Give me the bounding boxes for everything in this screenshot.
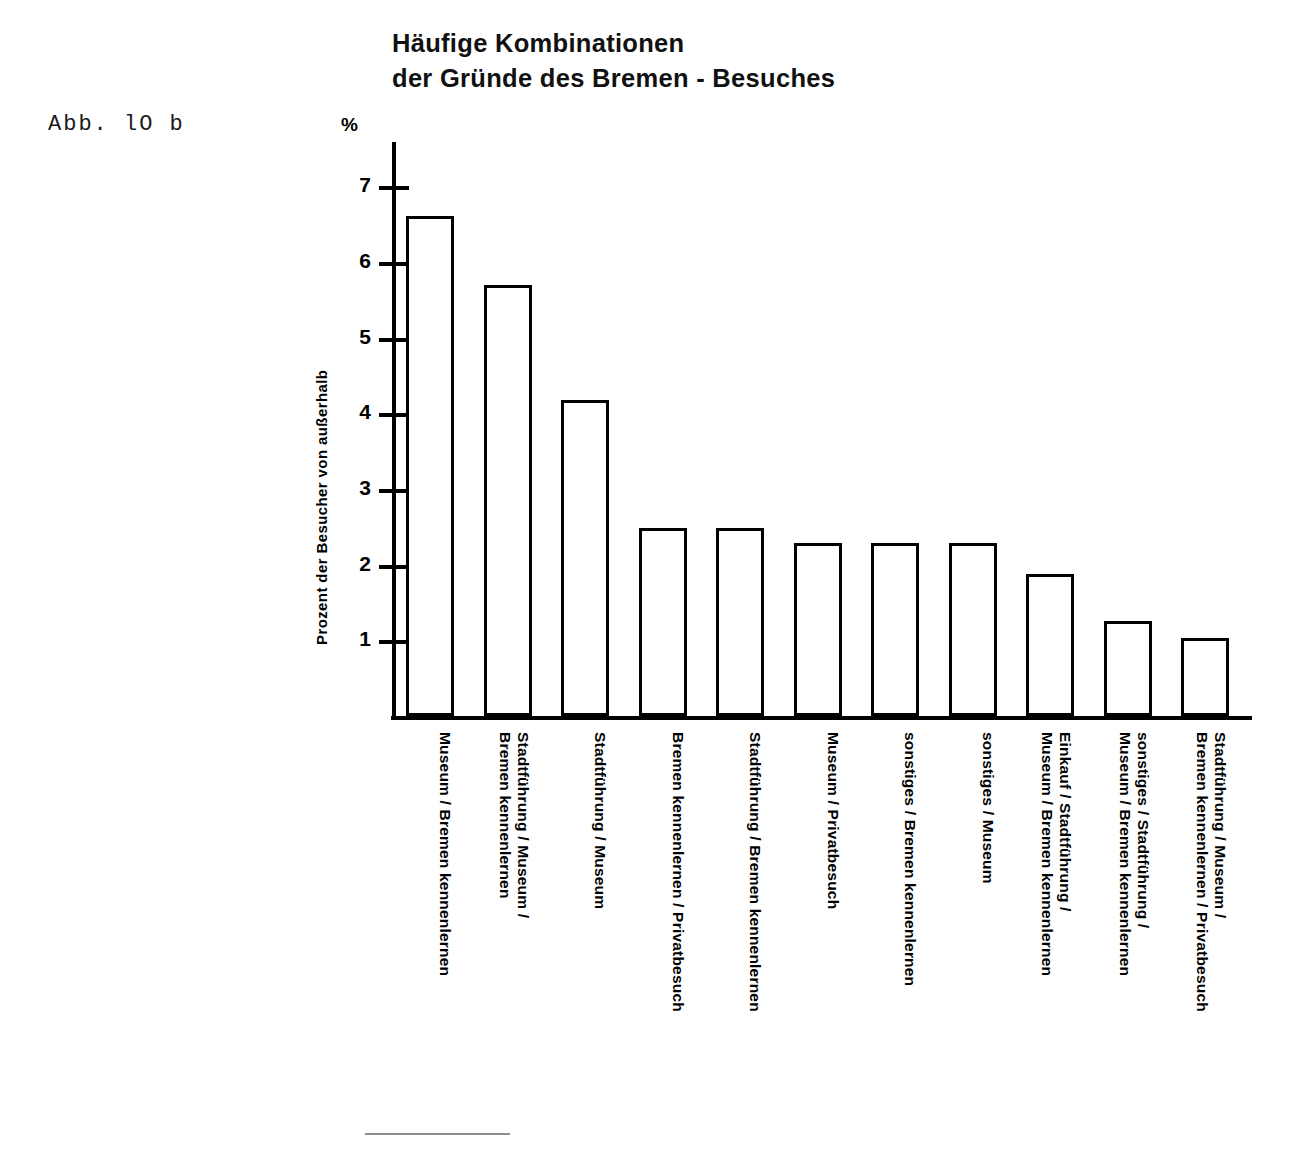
x-axis-label: Museum / Privatbesuch: [823, 732, 841, 909]
y-tick-label: 6: [345, 250, 371, 271]
chart-title-line-1: Häufige Kombinationen: [392, 26, 835, 61]
bar: [949, 543, 997, 716]
x-axis-label: sonstiges / Stadtführung /Museum / Breme…: [1115, 732, 1152, 976]
bar: [1104, 621, 1152, 716]
chart-title: Häufige Kombinationen der Gründe des Bre…: [392, 26, 835, 96]
x-axis-label-line: Museum / Bremen kennenlernen: [1037, 732, 1055, 976]
y-axis-unit-symbol: %: [341, 114, 358, 136]
x-axis-label-line: Museum / Bremen kennenlernen: [436, 732, 454, 976]
x-axis-label: Einkauf / Stadtführung /Museum / Bremen …: [1037, 732, 1074, 976]
y-tick-label: 5: [345, 326, 371, 347]
x-axis-label: Stadtführung / Museum /Bremen kennenlern…: [495, 732, 532, 918]
x-axis-label: Museum / Bremen kennenlernen: [436, 732, 454, 976]
bar: [716, 528, 764, 716]
x-axis-line: [391, 716, 1252, 720]
chart-title-line-2: der Gründe des Bremen - Besuches: [392, 61, 835, 96]
x-axis-label-line: sonstiges / Bremen kennenlernen: [901, 732, 919, 986]
x-axis-label-line: Stadtführung / Bremen kennenlernen: [746, 732, 764, 1012]
bar: [1181, 638, 1229, 716]
x-axis-label-line: sonstiges / Stadtführung /: [1133, 732, 1151, 976]
x-axis-label-line: Einkauf / Stadtführung /: [1056, 732, 1074, 976]
y-tick-label: 7: [345, 174, 371, 195]
bar: [484, 285, 532, 716]
y-tick-label: 1: [345, 628, 371, 649]
y-tick-label: 2: [345, 553, 371, 574]
x-axis-label-line: sonstiges / Museum: [978, 732, 996, 884]
bar: [406, 216, 454, 716]
y-tick-mark: [379, 413, 409, 417]
x-axis-label-line: Bremen kennenlernen / Privatbesuch: [1192, 732, 1210, 1012]
y-tick-label: 4: [345, 401, 371, 422]
x-axis-label: Stadtführung / Museum /Bremen kennenlern…: [1192, 732, 1229, 1012]
y-tick-mark: [379, 640, 409, 644]
plot-area: 1234567: [392, 142, 1252, 720]
y-tick-mark: [379, 565, 409, 569]
x-axis-label: sonstiges / Museum: [978, 732, 996, 884]
x-axis-label: sonstiges / Bremen kennenlernen: [901, 732, 919, 986]
bar: [1026, 574, 1074, 716]
x-axis-label-line: Museum / Bremen kennenlernen: [1115, 732, 1133, 976]
y-tick-label: 3: [345, 477, 371, 498]
x-axis-label-line: Bremen kennenlernen: [495, 732, 513, 918]
bar: [794, 543, 842, 716]
bar: [871, 543, 919, 716]
y-axis-title: Prozent der Besucher von außerhalb: [313, 225, 330, 645]
x-axis-label-line: Stadtführung / Museum /: [1211, 732, 1229, 1012]
y-tick-mark: [379, 489, 409, 493]
x-axis-label: Stadtführung / Bremen kennenlernen: [746, 732, 764, 1012]
y-tick-mark: [379, 262, 409, 266]
x-axis-category-labels: Museum / Bremen kennenlernenStadtführung…: [392, 726, 1272, 1126]
y-axis-line: [392, 142, 396, 720]
y-tick-mark: [379, 338, 409, 342]
bar: [639, 528, 687, 716]
x-axis-label: Bremen kennenlernen / Privatbesuch: [668, 732, 686, 1012]
x-axis-label-line: Bremen kennenlernen / Privatbesuch: [668, 732, 686, 1012]
x-axis-label-line: Museum / Privatbesuch: [823, 732, 841, 909]
page-rule: [365, 1133, 510, 1135]
x-axis-label-line: Stadtführung / Museum /: [513, 732, 531, 918]
figure-label: Abb. lO b: [48, 112, 185, 137]
y-tick-mark: [379, 186, 409, 190]
x-axis-label-line: Stadtführung / Museum: [591, 732, 609, 909]
x-axis-label: Stadtführung / Museum: [591, 732, 609, 909]
bar: [561, 400, 609, 716]
